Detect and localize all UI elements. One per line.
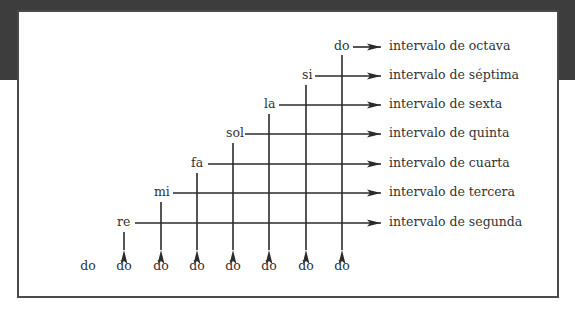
- base-note-3: do: [153, 259, 169, 273]
- note-label-mi: mi: [154, 185, 170, 199]
- interval-label-septima: intervalo de séptima: [389, 68, 519, 82]
- base-note-7: do: [298, 259, 314, 273]
- vertical-arrows: [124, 55, 342, 250]
- horizontal-arrows: [135, 47, 381, 223]
- interval-label-tercera: intervalo de tercera: [389, 185, 515, 199]
- interval-label-cuarta: intervalo de cuarta: [389, 156, 510, 170]
- interval-label-segunda: intervalo de segunda: [389, 215, 522, 229]
- note-label-do-octava: do: [334, 39, 350, 53]
- interval-label-octava: intervalo de octava: [389, 39, 510, 53]
- note-label-si: si: [302, 68, 312, 82]
- note-label-la: la: [264, 97, 275, 111]
- interval-label-quinta: intervalo de quinta: [389, 126, 509, 140]
- note-label-fa: fa: [191, 156, 203, 170]
- base-note-5: do: [225, 259, 241, 273]
- interval-label-sexta: intervalo de sexta: [389, 97, 502, 111]
- base-note-4: do: [189, 259, 205, 273]
- note-label-re: re: [117, 215, 130, 229]
- base-note-6: do: [261, 259, 277, 273]
- note-label-sol: sol: [226, 126, 244, 140]
- base-note-2: do: [116, 259, 132, 273]
- base-note-8: do: [334, 259, 350, 273]
- base-note-1: do: [80, 259, 96, 273]
